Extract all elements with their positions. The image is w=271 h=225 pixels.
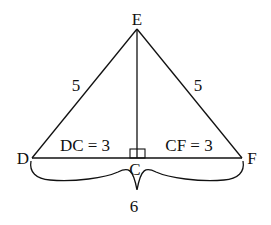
triangle-diagram: E D F C 5 5 DC = 3 CF = 3 6 xyxy=(0,0,271,225)
segment-label-CF: CF = 3 xyxy=(165,136,212,155)
side-label-ED: 5 xyxy=(72,76,81,95)
point-label-F: F xyxy=(247,149,256,168)
diagram-canvas: E D F C 5 5 DC = 3 CF = 3 6 xyxy=(0,0,271,225)
point-label-D: D xyxy=(17,149,29,168)
point-label-C: C xyxy=(129,160,140,179)
point-label-E: E xyxy=(132,10,142,29)
side-label-EF: 5 xyxy=(194,76,203,95)
total-length-label: 6 xyxy=(130,197,139,216)
segment-label-DC: DC = 3 xyxy=(60,136,110,155)
